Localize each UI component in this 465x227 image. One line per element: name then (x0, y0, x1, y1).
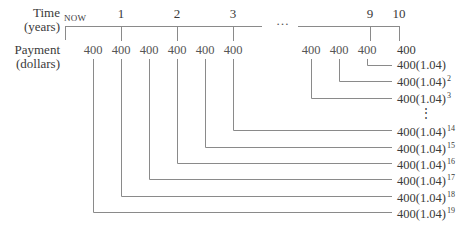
connector-3 (312, 59, 393, 99)
connector-1 (368, 59, 393, 66)
connector-19 (94, 59, 393, 213)
connector-17 (150, 59, 393, 180)
connector-2 (340, 59, 393, 82)
connector-14 (234, 59, 393, 131)
connector-18 (122, 59, 393, 197)
timeline-diagram (0, 0, 465, 227)
